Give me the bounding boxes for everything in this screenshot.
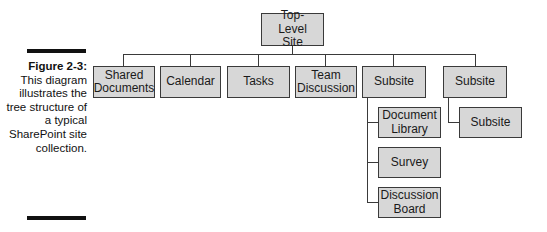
node-subsite-2: Subsite (443, 66, 507, 98)
node-document-library: Document Library (378, 107, 441, 138)
drop-calendar (190, 54, 191, 66)
node-shared-documents: Shared Documents (93, 66, 155, 98)
caption-bottom-rule (27, 216, 86, 220)
figure-caption-text: This diagram illustrates the tree struct… (6, 74, 87, 154)
node-nested-subsite: Subsite (459, 107, 522, 138)
node-team-discussion: Team Discussion (295, 66, 357, 98)
figure-caption: Figure 2-3: This diagram illustrates the… (0, 60, 87, 155)
drop-shared-documents (123, 54, 124, 66)
branch-document-library (367, 122, 378, 123)
figure-label: Figure 2-3: (0, 60, 87, 74)
node-discussion-board: Discussion Board (378, 187, 441, 218)
drop-tasks (258, 54, 259, 66)
caption-top-rule (27, 49, 86, 53)
node-survey: Survey (378, 147, 441, 178)
branch-nested-subsite (448, 122, 459, 123)
node-tasks: Tasks (227, 66, 290, 98)
node-subsite-1: Subsite (362, 66, 426, 98)
branch-discussion-board (367, 202, 378, 203)
branch-survey (367, 162, 378, 163)
drop-subsite-2 (475, 54, 476, 66)
level1-bus (123, 54, 476, 55)
subsite-1-trunk (367, 97, 368, 203)
drop-team-discussion (325, 54, 326, 66)
node-calendar: Calendar (160, 66, 221, 98)
node-top-level-site: Top-Level Site (261, 13, 324, 46)
subsite-2-trunk (448, 97, 449, 122)
drop-subsite-1 (393, 54, 394, 66)
